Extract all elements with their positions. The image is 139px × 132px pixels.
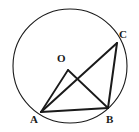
geometry-figure: O A B C [0,0,139,132]
segment-CB [108,43,117,108]
segment-AC [41,43,117,112]
vertex-label-c: C [119,29,127,40]
vertex-label-o: O [57,53,66,64]
segment-AB [41,108,108,112]
segment-OB [68,70,108,108]
vertex-label-b: B [106,114,113,125]
circumscribed-circle [13,9,127,123]
vertex-label-a: A [30,114,38,125]
geometry-canvas [0,0,139,132]
